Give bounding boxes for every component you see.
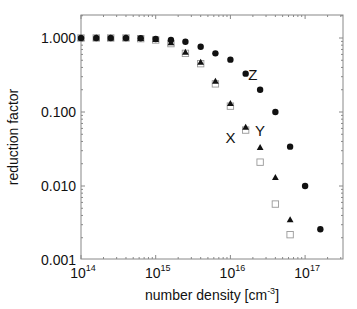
data-point-circle xyxy=(93,35,99,41)
y-minor-ticks xyxy=(81,16,343,238)
x-tick-labels: 1014101510161017 xyxy=(70,263,320,281)
data-point-circle xyxy=(227,56,233,62)
y-tick-label: 0.010 xyxy=(41,178,76,194)
x-tick-label: 1016 xyxy=(220,263,246,281)
data-point-circle xyxy=(287,143,293,149)
y-tick-label: 1.000 xyxy=(41,30,76,46)
data-point-triangle xyxy=(272,174,279,180)
plot-frame xyxy=(81,15,343,259)
data-point-square xyxy=(257,159,263,165)
data-point-square xyxy=(272,201,278,207)
data-point-circle xyxy=(317,226,323,232)
annotation-y: Y xyxy=(255,122,265,139)
chart: 1014101510161017 1.0000.1000.0100.001 ZX… xyxy=(0,0,357,309)
annotation-x: X xyxy=(225,129,235,146)
data-series xyxy=(78,34,324,237)
data-point-circle xyxy=(272,109,278,115)
x-tick-label: 1017 xyxy=(294,263,320,281)
data-point-circle xyxy=(182,39,188,45)
y-tick-labels: 1.0000.1000.0100.001 xyxy=(41,30,76,268)
data-point-circle xyxy=(257,87,263,93)
data-point-circle xyxy=(302,183,308,189)
data-point-circle xyxy=(212,50,218,56)
data-point-circle xyxy=(123,35,129,41)
x-minor-ticks xyxy=(81,15,341,259)
x-tick-label: 1015 xyxy=(145,263,171,281)
data-point-circle xyxy=(197,44,203,50)
data-point-circle xyxy=(153,36,159,42)
data-point-circle xyxy=(168,37,174,43)
x-axis-label: number density [cm-3] xyxy=(145,286,279,303)
data-point-triangle xyxy=(287,216,294,222)
data-point-circle xyxy=(138,35,144,41)
data-point-square xyxy=(287,231,293,237)
data-point-triangle xyxy=(257,144,264,150)
data-point-circle xyxy=(108,35,114,41)
y-tick-label: 0.100 xyxy=(41,104,76,120)
annotation-z: Z xyxy=(248,66,257,83)
y-axis-label: reduction factor xyxy=(5,88,21,185)
data-point-circle xyxy=(78,35,84,41)
y-tick-label: 0.001 xyxy=(41,252,76,268)
